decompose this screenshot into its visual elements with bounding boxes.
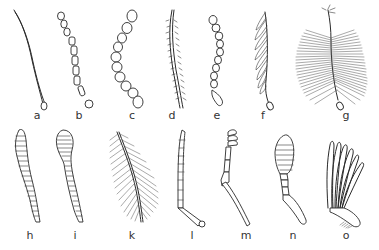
- label-l: l: [190, 230, 193, 241]
- antenna-d-drawing: [166, 10, 186, 108]
- label-i: i: [73, 230, 76, 241]
- antennae-drawings: [0, 0, 379, 250]
- antenna-m-drawing: [221, 130, 250, 226]
- antennae-figure: a b c d e f g h i k l m n o: [0, 0, 379, 250]
- antenna-e-drawing: [209, 16, 224, 106]
- label-a: a: [34, 110, 41, 121]
- antenna-n-drawing: [275, 135, 306, 224]
- label-g: g: [343, 110, 350, 121]
- label-f: f: [261, 110, 265, 121]
- antenna-l-drawing: [178, 130, 205, 227]
- antenna-b-drawing: [58, 12, 94, 108]
- antenna-a-drawing: [14, 10, 47, 110]
- antenna-o-drawing: [327, 141, 364, 228]
- label-o: o: [343, 230, 350, 241]
- antenna-g-drawing: [296, 5, 367, 111]
- label-b: b: [76, 110, 83, 121]
- label-h: h: [27, 230, 34, 241]
- antenna-i-drawing: [56, 130, 83, 222]
- label-e: e: [214, 110, 221, 121]
- antenna-c-drawing: [111, 10, 143, 108]
- antenna-h-drawing: [15, 129, 40, 222]
- label-d: d: [169, 110, 176, 121]
- antenna-k-drawing: [110, 132, 158, 222]
- label-k: k: [129, 230, 135, 241]
- label-n: n: [290, 230, 297, 241]
- label-c: c: [129, 110, 135, 121]
- antenna-f-drawing: [255, 12, 274, 111]
- label-m: m: [241, 230, 252, 241]
